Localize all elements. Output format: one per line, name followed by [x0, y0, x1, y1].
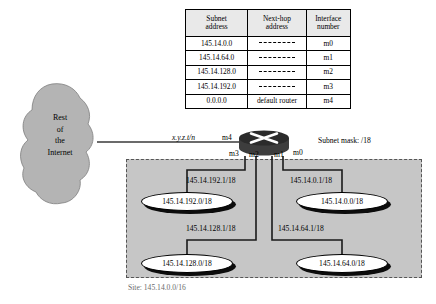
interface-label-m0: m0: [293, 148, 303, 157]
subnet-mask-label: Subnet mask: /18: [318, 136, 371, 145]
interface-address-m3: 145.14.192.1/18: [186, 176, 236, 185]
interface-address-m1: 145.14.64.1/18: [278, 224, 324, 233]
interface-label-m1: m1: [274, 150, 284, 159]
cloud-label: Rest of the Internet: [18, 112, 102, 158]
subnet-node-192[interactable]: 145.14.192.0/18: [141, 192, 233, 211]
internet-cloud: Rest of the Internet: [18, 82, 102, 207]
subnet-node-64[interactable]: 145.14.64.0/18: [296, 254, 388, 273]
subnet-node-0[interactable]: 145.14.0.0/18: [296, 192, 388, 211]
link-line-m3: [187, 156, 245, 192]
subnet-label: 145.14.128.0/18: [141, 254, 233, 273]
interface-address-m2: 145.14.128.1/18: [186, 224, 236, 233]
interface-address-m0: 145.14.0.1/18: [290, 176, 332, 185]
interface-label-m3: m3: [229, 149, 239, 158]
link-line-m0: [283, 156, 342, 192]
interface-label-m2: m2: [249, 150, 259, 159]
wan-address-label: x.y.z.t/n: [172, 133, 195, 142]
subnet-label: 145.14.64.0/18: [296, 254, 388, 273]
interface-label-m4: m4: [222, 133, 232, 142]
network-diagram-figure: Subnet address Next-hop address Interfac…: [0, 0, 436, 304]
subnet-node-128[interactable]: 145.14.128.0/18: [141, 254, 233, 273]
subnet-label: 145.14.0.0/18: [296, 192, 388, 211]
subnet-label: 145.14.192.0/18: [141, 192, 233, 211]
